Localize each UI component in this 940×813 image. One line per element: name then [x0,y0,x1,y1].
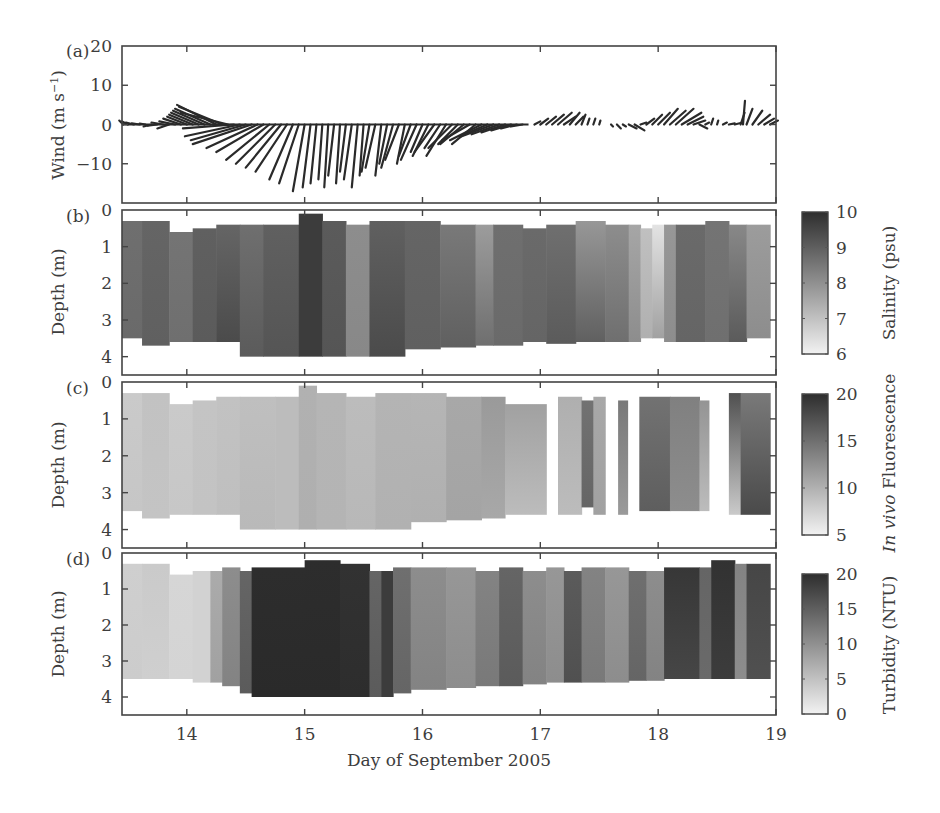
heatmap-cell [142,221,170,346]
y-tick-label: 4 [101,520,112,540]
panel-c-fluorescence: (c) 01234 Depth (m) 2015105 In vivo Fluo… [48,372,899,553]
heatmap-cell [582,567,606,682]
heatmap-cell [346,225,370,357]
heatmap-cell [741,393,771,515]
x-axis-label: Day of September 2005 [347,750,551,770]
panel-a-wind: (a) 20100−10 Wind (m s−1) [48,36,778,203]
heatmap-cell [122,393,143,511]
heatmap-cell [605,225,629,342]
y-tick-label: 3 [101,651,112,671]
colorbar-tick-label: 6 [836,344,847,364]
y-tick-label: 4 [101,687,112,707]
panel-d-ylabel: Depth (m) [48,590,68,677]
heatmap-cell [629,571,647,681]
panel-d-tag: (d) [66,549,90,569]
heatmap-cell [216,225,240,342]
heatmap-cell [558,397,582,515]
heatmap-cell [405,221,441,349]
wind-stick [705,123,709,125]
heatmap-cell [699,400,709,511]
heatmap-cell [393,567,411,693]
y-tick-label: 0 [101,372,112,392]
wind-stick-vectors [119,101,778,191]
heatmap-cell [299,214,323,357]
y-tick-label: 2 [101,615,112,635]
y-tick-label: 2 [101,273,112,293]
salinity-heatmap [122,214,771,357]
y-tick-label: 10 [90,75,112,95]
wind-stick [747,109,753,125]
heatmap-cell [618,400,628,514]
heatmap-cell [747,225,771,339]
heatmap-cell [593,397,605,515]
y-tick-label: 1 [101,237,112,257]
heatmap-cell [275,397,299,530]
x-tick-label: 17 [530,724,552,744]
panel-b-ylabel: Depth (m) [48,248,68,335]
heatmap-cell [142,564,170,679]
heatmap-cell [546,225,576,344]
wind-stick [366,125,376,168]
fluorescence-colorbar [802,394,828,535]
heatmap-cell [481,397,505,519]
colorbar-tick-label: 8 [836,273,847,293]
y-tick-label: 3 [101,483,112,503]
heatmap-cell [375,393,411,529]
heatmap-cell [193,228,217,342]
heatmap-cell [369,571,381,697]
colorbar-tick-label: 5 [836,669,847,689]
y-tick-label: 0 [101,200,112,220]
wind-stick [623,125,626,127]
x-tick-label: 15 [294,724,316,744]
colorbar-tick-label: 10 [836,634,858,654]
heatmap-cell [240,571,252,693]
heatmap-cell [640,228,652,338]
wind-stick [599,121,600,125]
heatmap-cell [222,567,240,686]
y-tick-label: 2 [101,446,112,466]
heatmap-cell [664,567,700,679]
fluorescence-colorbar-label: In vivo Fluorescence [879,374,899,554]
salinity-colorbar-label: Salinity (psu) [879,226,899,341]
wind-stick [717,121,718,125]
panel-b-salinity: (b) 01234 Depth (m) 109876 Salinity (psu… [48,200,899,375]
heatmap-cell [493,225,523,346]
wind-stick [324,125,328,188]
panel-d-turbidity: (d) 01234 Depth (m) 20151050 Turbidity (… [48,543,899,724]
heatmap-cell [169,575,193,679]
colorbar-tick-label: 9 [836,238,847,258]
panel-a-tag: (a) [66,41,89,61]
heatmap-cell [142,393,170,518]
heatmap-cell [240,397,276,530]
fluorescence-heatmap [122,386,771,530]
wind-stick [593,119,595,125]
heatmap-cell [705,221,729,342]
y-tick-label: 20 [90,36,112,56]
colorbar-tick-label: 5 [836,525,847,545]
heatmap-cell [523,228,547,342]
heatmap-cell [193,571,211,683]
wind-stick [611,125,613,127]
wind-stick [617,125,621,129]
salinity-colorbar [802,212,828,354]
heatmap-cell [664,225,676,342]
heatmap-cell [582,400,594,507]
y-tick-label: −10 [76,154,112,174]
heatmap-cell [210,571,222,683]
colorbar-tick-label: 10 [836,478,858,498]
heatmap-cell [476,225,494,346]
heatmap-cell [440,225,476,348]
wind-stick [311,125,317,184]
heatmap-cell [646,571,664,681]
wind-stick [723,123,727,125]
heatmap-cell [216,397,240,515]
wind-stick [318,125,322,180]
x-tick-label: 18 [647,724,669,744]
heatmap-cell [629,225,641,342]
heatmap-cell [169,404,193,515]
heatmap-cell [446,397,482,521]
turbidity-colorbar-label: Turbidity (NTU) [879,576,899,715]
heatmap-cell [605,567,629,682]
heatmap-cell [476,571,500,686]
panel-a-y-ticks: 20100−10 [76,36,776,174]
